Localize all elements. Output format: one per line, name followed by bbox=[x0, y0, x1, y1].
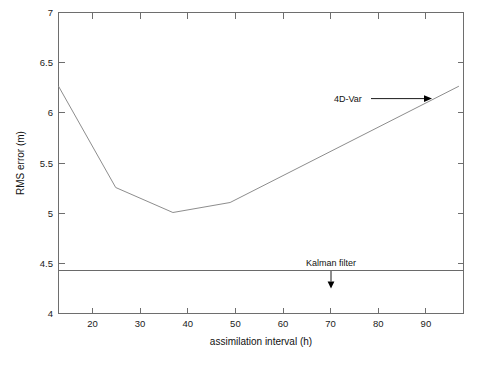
y-tick-label-6: 6 bbox=[48, 107, 53, 118]
y-tick-label-5: 5 bbox=[48, 208, 53, 219]
annotation-fourdvar-label: 4D-Var bbox=[334, 94, 362, 104]
y-tick-label-5-5: 5.5 bbox=[40, 158, 53, 169]
annotation-kalman-label: Kalman filter bbox=[306, 258, 356, 268]
x-tick-label-20: 20 bbox=[87, 318, 98, 329]
chart-figure: 4 4.5 5 5.5 6 6.5 7 bbox=[0, 0, 478, 368]
x-tick-label-50: 50 bbox=[230, 318, 241, 329]
x-tick-label-60: 60 bbox=[278, 318, 289, 329]
x-tick-label-70: 70 bbox=[325, 318, 336, 329]
chart-svg: 4 4.5 5 5.5 6 6.5 7 bbox=[0, 0, 478, 368]
x-tick-label-90: 90 bbox=[421, 318, 432, 329]
y-tick-label-4-5: 4.5 bbox=[40, 258, 53, 269]
y-axis-title: RMS error (m) bbox=[15, 131, 26, 195]
x-tick-label-30: 30 bbox=[135, 318, 146, 329]
y-tick-label-6-5: 6.5 bbox=[40, 57, 53, 68]
y-tick-label-7: 7 bbox=[48, 7, 53, 18]
x-tick-label-40: 40 bbox=[182, 318, 193, 329]
chart-background bbox=[0, 0, 478, 368]
x-tick-label-80: 80 bbox=[373, 318, 384, 329]
y-tick-label-4: 4 bbox=[48, 308, 53, 319]
x-axis-title: assimilation interval (h) bbox=[210, 336, 312, 347]
